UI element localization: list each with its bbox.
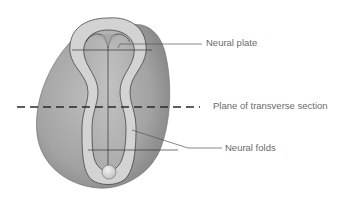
label-plane-of-transverse-section: Plane of transverse section [213,101,328,111]
embryo-illustration [0,0,351,198]
label-neural-folds: Neural folds [225,143,276,153]
neural-tube-diagram: Neural plate Plane of transverse section… [0,0,351,198]
primitive-knob [102,165,116,179]
label-neural-plate: Neural plate [206,38,257,48]
